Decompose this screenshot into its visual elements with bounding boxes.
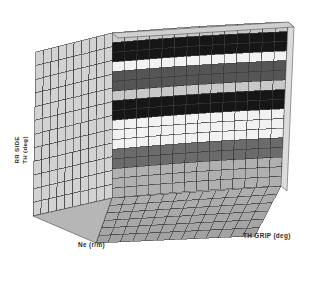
- left-wall-panel: [33, 33, 112, 216]
- y-axis-label: TH GRIP (deg): [243, 232, 291, 240]
- z-axis-label-line1: RR SIDE: [13, 136, 20, 163]
- x-axis-label: Ne (r/m): [78, 241, 105, 249]
- surface-plot-canvas: RR SIDE TH (deg) Ne (r/m) TH GRIP (deg): [0, 0, 319, 290]
- surface-plot-figure: RR SIDE TH (deg) Ne (r/m) TH GRIP (deg): [0, 0, 319, 290]
- z-axis-label-line2: TH (deg): [21, 136, 28, 164]
